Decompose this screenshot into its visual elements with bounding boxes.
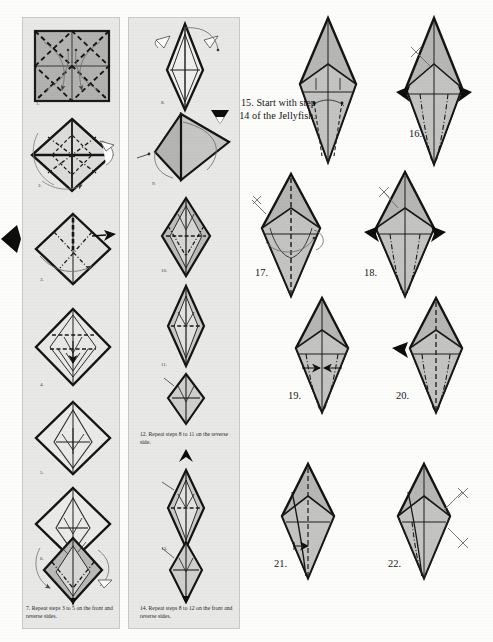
step-number-5: 5. — [40, 470, 44, 475]
caption-step-14: 14. Repeat steps 8 to 12 on the front an… — [140, 604, 238, 620]
step-number-16: 16. — [409, 128, 422, 139]
page-canvas: 1. 2. 3. — [0, 0, 493, 642]
figure-step-7 — [28, 536, 118, 608]
step-number-18: 18. — [364, 267, 377, 278]
step-number-11: 11. — [161, 362, 167, 367]
figure-step-15 — [292, 16, 364, 166]
step-number-10: 10. — [161, 268, 167, 273]
step-number-4: 4. — [40, 382, 44, 387]
step-number-3: 3. — [40, 277, 44, 282]
figure-step-10 — [148, 196, 224, 280]
figure-step-4 — [30, 305, 116, 389]
figure-step-17 — [252, 172, 330, 300]
step-number-19: 19. — [288, 390, 301, 401]
step-number-20: 20. — [396, 390, 409, 401]
figure-step-9 — [137, 108, 237, 190]
figure-step-1 — [32, 28, 112, 106]
caption-step-12: 12. Repeat steps 8 to 11 on the reverse … — [140, 430, 236, 446]
caption-step-7: 7. Repeat steps 3 to 5 on the front and … — [26, 604, 118, 620]
step-number-22: 22. — [388, 558, 401, 569]
figure-step-5 — [30, 398, 116, 478]
figure-step-12 — [152, 372, 220, 428]
step-number-2: 2. — [38, 183, 42, 188]
figure-step-18 — [362, 170, 448, 300]
caption-step-15: 15. Start with step 14 of the Jellyfish. — [238, 96, 316, 123]
step-number-21: 21. — [274, 558, 287, 569]
figure-step-8 — [148, 22, 222, 114]
step-number-8: 8. — [161, 100, 165, 105]
figure-step-14 — [152, 540, 220, 606]
figure-step-11 — [152, 284, 220, 370]
edge-arrow-marker — [0, 222, 22, 256]
figure-step-16 — [396, 16, 472, 168]
step-number-1: 1. — [36, 101, 40, 106]
step-number-17: 17. — [255, 267, 268, 278]
fold-direction-arrow-up — [178, 448, 194, 464]
step-number-9: 9. — [152, 181, 156, 186]
